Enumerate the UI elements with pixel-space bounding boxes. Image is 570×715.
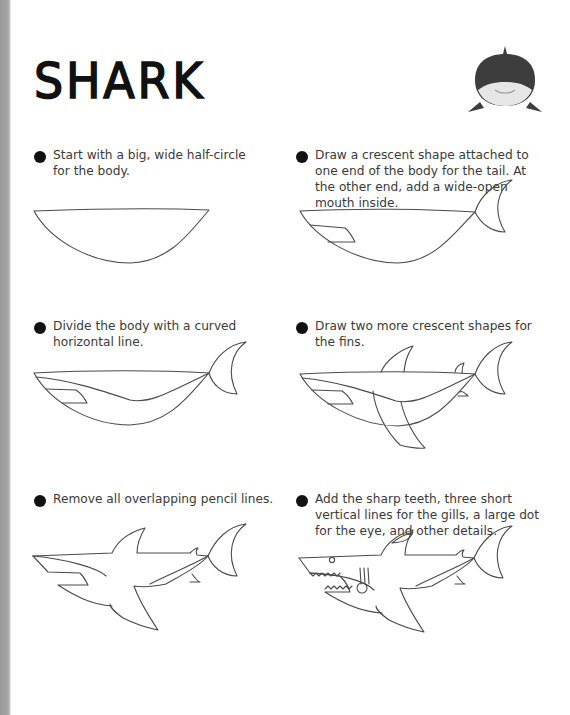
step-6-finished-shark-drawing bbox=[0, 0, 570, 715]
